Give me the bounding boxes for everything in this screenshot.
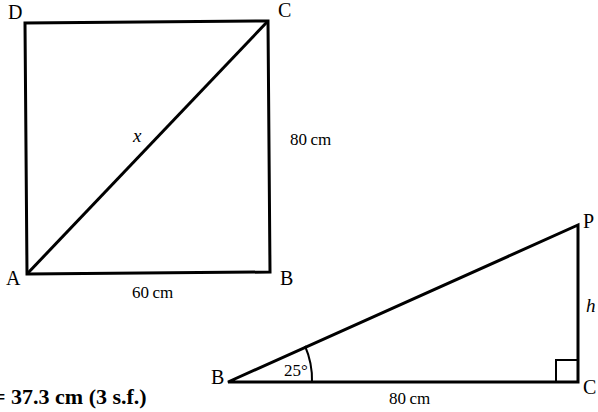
vertex-label-b2: B — [211, 367, 224, 387]
square-abcd — [25, 21, 270, 274]
vertex-label-d: D — [8, 2, 22, 22]
diagram-canvas: D C A B 60 cm 80 cm x P B C 80 cm 25° h … — [0, 0, 598, 412]
vertex-label-b: B — [280, 268, 293, 288]
vertex-label-a: A — [6, 268, 20, 288]
vertex-label-p: P — [583, 211, 594, 231]
dimension-label-side-80cm: 80 cm — [290, 131, 331, 148]
triangle-outline — [228, 225, 578, 382]
angle-label-25deg: 25° — [284, 362, 308, 379]
unknown-label-h: h — [586, 296, 596, 315]
triangle-bpc — [228, 225, 578, 382]
diagonal-ac — [27, 21, 268, 274]
dimension-label-base-60cm: 60 cm — [132, 284, 173, 301]
vertex-label-c: C — [278, 0, 291, 20]
answer-text: = 37.3 cm (3 s.f.) — [0, 386, 147, 408]
unknown-label-x: x — [133, 126, 141, 145]
geometry-figures-svg — [0, 0, 598, 412]
dimension-label-base-80cm: 80 cm — [389, 390, 430, 407]
vertex-label-c2: C — [583, 377, 596, 397]
right-angle-marker-c — [556, 360, 578, 382]
